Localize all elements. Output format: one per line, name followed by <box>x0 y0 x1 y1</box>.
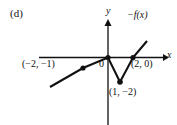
point-label-minus2-minus1: (−2, −1) <box>22 59 55 69</box>
point-marker-1-minus2 <box>117 79 123 85</box>
origin-label: 0 <box>99 59 104 69</box>
point-marker-minus2-minus1 <box>80 65 85 70</box>
y-axis-arrowhead <box>105 19 112 26</box>
point-label-2-0: (2, 0) <box>131 59 153 69</box>
x-axis-label: x <box>167 50 171 60</box>
y-axis <box>105 19 112 125</box>
y-axis-label: y <box>106 6 110 16</box>
function-label: −f(x) <box>127 10 148 20</box>
figure-panel: (d) y x −f(x) 0 (−2, −1) (2, 0) (1, −2) <box>0 0 177 125</box>
point-label-1-minus2: (1, −2) <box>109 87 136 97</box>
point-marker-origin <box>105 55 110 60</box>
